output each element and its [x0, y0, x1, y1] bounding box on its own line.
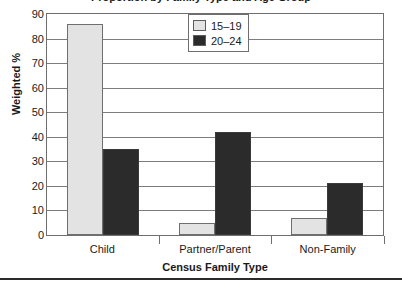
bar[interactable] — [215, 132, 251, 235]
legend-item[interactable]: 20–24 — [193, 33, 242, 48]
bar-group — [47, 14, 159, 235]
bar[interactable] — [179, 223, 215, 235]
y-tick-label: 80 — [32, 33, 44, 45]
legend: 15–1920–24 — [188, 14, 249, 52]
bar-chart: 9080706050403020100 Weighted % ChildPart… — [0, 0, 402, 289]
legend-swatch-icon — [193, 20, 206, 31]
legend-label: 15–19 — [211, 20, 242, 32]
bar[interactable] — [291, 218, 327, 235]
legend-label: 20–24 — [211, 35, 242, 47]
y-tick-label: 70 — [32, 57, 44, 69]
bar[interactable] — [103, 149, 139, 235]
x-tick-label: Non-Family — [300, 243, 356, 255]
y-tick-label: 90 — [32, 8, 44, 20]
y-tick-label: 0 — [38, 229, 44, 241]
y-tick-label: 30 — [32, 155, 44, 167]
bar-group — [271, 14, 383, 235]
y-tick-label: 60 — [32, 82, 44, 94]
y-axis-title: Weighted % — [10, 24, 22, 144]
bar[interactable] — [327, 183, 363, 235]
x-axis-tick — [384, 236, 385, 244]
x-tick-label: Child — [90, 243, 115, 255]
y-tick-label: 40 — [32, 131, 44, 143]
y-tick-label: 10 — [32, 204, 44, 216]
x-axis-tick-labels: ChildPartner/ParentNon-Family — [46, 243, 384, 259]
x-tick-label: Partner/Parent — [179, 243, 251, 255]
bar[interactable] — [67, 24, 103, 235]
y-tick-label: 50 — [32, 106, 44, 118]
x-axis-title: Census Family Type — [46, 261, 384, 273]
footer-rule — [0, 278, 402, 280]
legend-item[interactable]: 15–19 — [193, 18, 242, 33]
y-tick-label: 20 — [32, 180, 44, 192]
legend-swatch-icon — [193, 35, 206, 46]
